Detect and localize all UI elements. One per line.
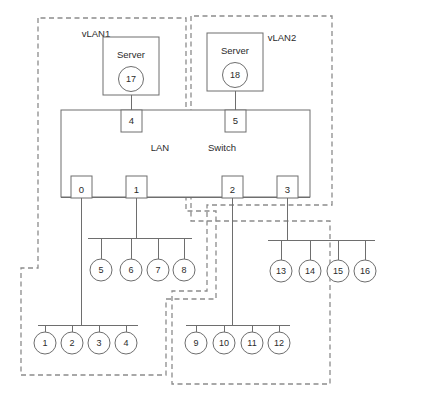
node-label-1: 1 bbox=[42, 338, 47, 348]
node-label-3: 3 bbox=[96, 338, 101, 348]
node-label-13: 13 bbox=[276, 266, 286, 276]
port-5-label: 5 bbox=[233, 115, 238, 126]
node-label-12: 12 bbox=[274, 338, 284, 348]
node-group-1-4: 1 2 3 4 bbox=[34, 325, 138, 354]
port-0-label: 0 bbox=[79, 184, 84, 195]
port-1: 1 bbox=[126, 176, 147, 198]
server-18: Server 18 bbox=[207, 33, 263, 110]
node-label-7: 7 bbox=[155, 265, 160, 275]
vlan2-label: vLAN2 bbox=[268, 32, 297, 43]
node-label-10: 10 bbox=[219, 338, 229, 348]
port-4: 4 bbox=[121, 110, 142, 132]
node-label-15: 15 bbox=[333, 266, 343, 276]
server-17-title: Server bbox=[117, 49, 145, 60]
port-4-label: 4 bbox=[129, 115, 134, 126]
network-topology-diagram: vLAN1 vLAN2 Server 17 Server 18 LAN Swit… bbox=[0, 0, 422, 409]
lan-label: LAN bbox=[151, 142, 170, 153]
node-group-13-16: 13 14 15 16 bbox=[268, 240, 376, 282]
switch-label: Switch bbox=[208, 142, 236, 153]
node-label-8: 8 bbox=[181, 265, 186, 275]
node-group-5-8: 5 6 7 8 bbox=[88, 238, 195, 281]
node-label-11: 11 bbox=[247, 338, 256, 348]
node-group-9-12: 9 10 11 12 bbox=[185, 325, 290, 354]
server-18-title: Server bbox=[221, 45, 249, 56]
port-2-label: 2 bbox=[230, 184, 235, 195]
port-2: 2 bbox=[222, 176, 243, 198]
node-label-16: 16 bbox=[360, 266, 370, 276]
server-17-node-label: 17 bbox=[126, 74, 136, 84]
lan-switch-box bbox=[61, 110, 310, 197]
port-3: 3 bbox=[277, 176, 298, 198]
node-label-5: 5 bbox=[98, 265, 103, 275]
node-label-4: 4 bbox=[123, 338, 128, 348]
server-17: Server 17 bbox=[103, 37, 159, 110]
port-3-label: 3 bbox=[285, 184, 290, 195]
node-label-2: 2 bbox=[69, 338, 74, 348]
port-0: 0 bbox=[71, 176, 92, 198]
topology-canvas: vLAN1 vLAN2 Server 17 Server 18 LAN Swit… bbox=[0, 0, 422, 409]
node-label-6: 6 bbox=[128, 265, 133, 275]
node-label-14: 14 bbox=[305, 266, 315, 276]
node-label-9: 9 bbox=[193, 338, 198, 348]
server-18-node-label: 18 bbox=[230, 70, 240, 80]
port-5: 5 bbox=[225, 110, 246, 132]
port-1-label: 1 bbox=[134, 184, 139, 195]
